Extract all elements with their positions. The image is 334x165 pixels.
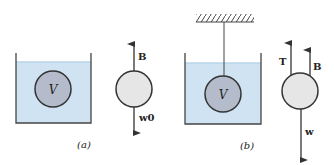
weight-label-b: w [304, 126, 314, 137]
panel-a: V B w0 (a) [16, 44, 155, 150]
buoyancy-diagram: V B w0 (a) V T B w [0, 0, 334, 165]
ceiling [196, 14, 254, 22]
volume-label-b: V [219, 88, 229, 102]
caption-b: (b) [240, 140, 254, 151]
panel-b: V T B w (b) [185, 14, 321, 160]
buoyancy-label-a: B [138, 51, 146, 62]
free-body-circle-a [116, 71, 152, 107]
buoyancy-label-b: B [313, 61, 321, 72]
ceiling-hatching [196, 14, 254, 22]
weight-label-a: w0 [138, 112, 155, 123]
free-body-b: T B w [279, 43, 321, 160]
free-body-circle-b [282, 73, 318, 109]
free-body-a: B w0 [116, 44, 155, 133]
tension-label-b: T [279, 56, 287, 67]
caption-a: (a) [77, 139, 91, 150]
volume-label-a: V [49, 83, 59, 97]
